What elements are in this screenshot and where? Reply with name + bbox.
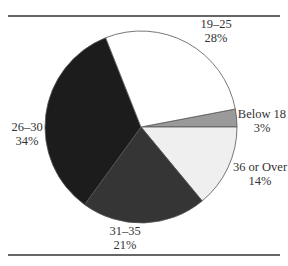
label-below-18-name: Below 18: [232, 107, 288, 121]
label-31-35-pct: 21%: [100, 238, 150, 252]
label-31-35-name: 31–35: [100, 224, 150, 238]
label-31-35: 31–35 21%: [100, 224, 150, 252]
label-19-25-pct: 28%: [186, 31, 246, 45]
label-36-or-over-pct: 14%: [228, 174, 288, 188]
label-19-25: 19–25 28%: [186, 17, 246, 45]
label-36-or-over: 36 or Over 14%: [228, 160, 288, 188]
label-19-25-name: 19–25: [186, 17, 246, 31]
label-below-18: Below 18 3%: [232, 107, 288, 135]
label-below-18-pct: 3%: [232, 121, 288, 135]
label-36-or-over-name: 36 or Over: [228, 160, 288, 174]
label-26-30-pct: 34%: [2, 134, 52, 148]
label-26-30-name: 26–30: [2, 120, 52, 134]
label-26-30: 26–30 34%: [2, 120, 52, 148]
bottom-rule: [8, 254, 280, 256]
